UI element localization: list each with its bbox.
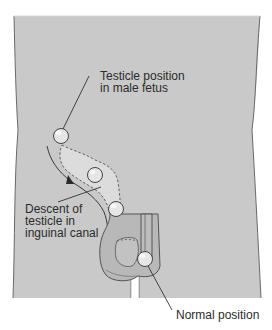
label-descent-inguinal-canal: Descent of testicle in inguinal canal [25,203,98,239]
scrotum-inner-fold [115,237,138,266]
label-testicle-fetal-position: Testicle position in male fetus [100,70,185,94]
label-line: Normal position [176,309,259,321]
testicle-descent-diagram [0,0,272,330]
label-line: in male fetus [100,82,185,94]
testicle-normal-position [138,252,153,267]
testicle-fetal-position [54,129,69,144]
testicle-mid-canal [88,168,103,183]
testicle-canal-exit [109,202,124,217]
label-line: inguinal canal [25,227,98,239]
label-normal-position: Normal position [176,309,259,321]
